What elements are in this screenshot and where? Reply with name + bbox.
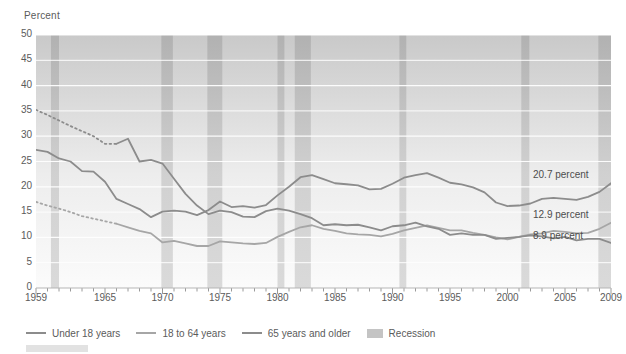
legend-item[interactable]: 65 years and older bbox=[242, 328, 351, 339]
legend-item[interactable]: 18 to 64 years bbox=[136, 328, 225, 339]
legend-label: 18 to 64 years bbox=[162, 328, 225, 339]
x-tick-label: 1985 bbox=[324, 292, 346, 303]
x-tick-label: 1980 bbox=[266, 292, 288, 303]
legend-label: Under 18 years bbox=[52, 328, 120, 339]
legend-line-icon bbox=[242, 332, 262, 334]
legend-item[interactable]: Under 18 years bbox=[26, 328, 120, 339]
legend-swatch-icon bbox=[367, 329, 383, 338]
chart-legend: Under 18 years18 to 64 years65 years and… bbox=[26, 325, 451, 341]
legend-item[interactable]: Recession bbox=[367, 328, 436, 339]
x-tick-label: 2009 bbox=[600, 292, 622, 303]
series-value-annotation: 8.9 percent bbox=[533, 230, 583, 241]
legend-line-icon bbox=[136, 332, 156, 334]
x-tick-label: 1959 bbox=[25, 292, 47, 303]
series-value-annotation: 12.9 percent bbox=[533, 209, 589, 220]
x-tick-label: 1975 bbox=[209, 292, 231, 303]
legend-label: Recession bbox=[389, 328, 436, 339]
legend-line-icon bbox=[26, 332, 46, 334]
x-tick-label: 2000 bbox=[496, 292, 518, 303]
x-tick-label: 1965 bbox=[94, 292, 116, 303]
chart-root: Percent 05101520253035404550 19591965197… bbox=[0, 0, 626, 354]
x-tick-label: 2005 bbox=[554, 292, 576, 303]
legend-label: 65 years and older bbox=[268, 328, 351, 339]
footnote-bar bbox=[26, 345, 88, 352]
x-tick-label: 1970 bbox=[151, 292, 173, 303]
x-tick-label: 1990 bbox=[381, 292, 403, 303]
series-value-annotation: 20.7 percent bbox=[533, 169, 589, 180]
x-tick-label: 1995 bbox=[439, 292, 461, 303]
